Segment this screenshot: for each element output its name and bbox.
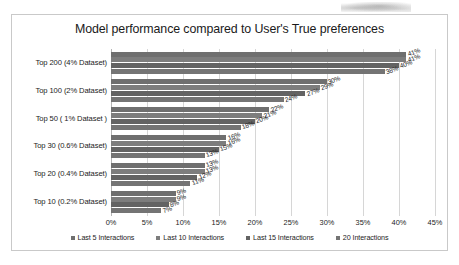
- bar[interactable]: [111, 69, 385, 74]
- bar[interactable]: [111, 202, 169, 207]
- bar-row: 21%: [111, 113, 435, 118]
- bar[interactable]: [111, 52, 406, 57]
- legend-swatch-icon: [156, 236, 160, 240]
- bar-row: 38%: [111, 69, 435, 74]
- bar-row: 15%: [111, 147, 435, 152]
- plot-area: 41%41%40%38%30%29%27%24%22%21%20%18%16%1…: [111, 49, 435, 216]
- bar-row: 13%: [111, 153, 435, 158]
- gridline: [435, 49, 436, 216]
- value-axis-tick: 5%: [142, 218, 153, 227]
- value-axis-tick: 30%: [320, 218, 335, 227]
- value-axis-tick: 10%: [176, 218, 191, 227]
- bar[interactable]: [111, 91, 305, 96]
- bar-row: 9%: [111, 197, 435, 202]
- bar-group: 16%16%15%13%: [111, 135, 435, 163]
- bar[interactable]: [111, 135, 226, 140]
- legend-label: 20 Interactions: [343, 233, 389, 242]
- category-axis-label: Top 100 (2% Dataset): [36, 86, 107, 95]
- category-axis-label: Top 20 (0.4% Dataset): [34, 169, 107, 178]
- legend-swatch-icon: [71, 236, 75, 240]
- legend-item[interactable]: Last 5 Interactions: [71, 233, 135, 242]
- legend-label: Last 5 Interactions: [78, 233, 135, 242]
- bar-row: 13%: [111, 163, 435, 168]
- bar-value-label: 7%: [162, 204, 173, 214]
- legend-label: Last 15 Interactions: [253, 233, 314, 242]
- legend-item[interactable]: Last 10 Interactions: [156, 233, 224, 242]
- bar-row: 30%: [111, 79, 435, 84]
- bar-row: 13%: [111, 169, 435, 174]
- bar-row: 29%: [111, 85, 435, 90]
- value-axis-tick: 45%: [428, 218, 443, 227]
- bar-row: 9%: [111, 191, 435, 196]
- category-axis: Top 200 (4% Dataset)Top 100 (2% Dataset)…: [16, 49, 109, 216]
- chart-legend: Last 5 InteractionsLast 10 InteractionsL…: [12, 233, 447, 242]
- value-axis-tick: 35%: [356, 218, 371, 227]
- category-axis-label: Top 200 (4% Dataset): [36, 58, 107, 67]
- value-axis: 0%5%10%15%20%25%30%35%40%45%: [111, 218, 435, 231]
- bar-groups: 41%41%40%38%30%29%27%24%22%21%20%18%16%1…: [111, 49, 435, 216]
- bar[interactable]: [111, 113, 262, 118]
- bar[interactable]: [111, 147, 219, 152]
- bar-group: 22%21%20%18%: [111, 107, 435, 135]
- legend-swatch-icon: [336, 236, 340, 240]
- category-axis-label: Top 50 ( 1% Dataset ): [36, 114, 107, 123]
- bar-row: 12%: [111, 175, 435, 180]
- bar[interactable]: [111, 153, 205, 158]
- bar-group: 41%41%40%38%: [111, 52, 435, 80]
- bar[interactable]: [111, 141, 226, 146]
- bar[interactable]: [111, 191, 176, 196]
- bar-row: 18%: [111, 125, 435, 130]
- bar[interactable]: [111, 125, 241, 130]
- bar[interactable]: [111, 197, 176, 202]
- scan-artifact: [341, 2, 411, 12]
- value-axis-tick: 40%: [392, 218, 407, 227]
- bar-group: 13%13%12%11%: [111, 163, 435, 191]
- legend-item[interactable]: Last 15 Interactions: [246, 233, 314, 242]
- legend-item[interactable]: 20 Interactions: [336, 233, 389, 242]
- value-axis-tick: 0%: [106, 218, 117, 227]
- bar-row: 11%: [111, 181, 435, 186]
- bar[interactable]: [111, 181, 190, 186]
- bar[interactable]: [111, 169, 205, 174]
- category-axis-label: Top 10 (0.2% Dataset): [34, 197, 107, 206]
- bar[interactable]: [111, 208, 161, 213]
- bar-row: 8%: [111, 202, 435, 207]
- legend-label: Last 10 Interactions: [163, 233, 224, 242]
- bar[interactable]: [111, 63, 399, 68]
- bar-row: 16%: [111, 141, 435, 146]
- value-axis-tick: 20%: [248, 218, 263, 227]
- bar-group: 9%9%8%7%: [111, 191, 435, 219]
- bar[interactable]: [111, 163, 205, 168]
- chart-title: Model performance compared to User's Tru…: [12, 22, 447, 36]
- bar-row: 41%: [111, 57, 435, 62]
- value-axis-tick: 15%: [212, 218, 227, 227]
- bar-value-label: 20%: [255, 114, 269, 125]
- bar[interactable]: [111, 97, 284, 102]
- bar[interactable]: [111, 107, 269, 112]
- bar-row: 24%: [111, 97, 435, 102]
- bar-row: 16%: [111, 135, 435, 140]
- bar[interactable]: [111, 57, 406, 62]
- bar[interactable]: [111, 85, 320, 90]
- chart-container: Model performance compared to User's Tru…: [11, 14, 448, 251]
- bar-row: 20%: [111, 119, 435, 124]
- bar[interactable]: [111, 175, 197, 180]
- bar-row: 41%: [111, 52, 435, 57]
- bar[interactable]: [111, 79, 327, 84]
- legend-swatch-icon: [246, 236, 250, 240]
- bar-row: 27%: [111, 91, 435, 96]
- bar-row: 7%: [111, 208, 435, 213]
- bar-group: 30%29%27%24%: [111, 79, 435, 107]
- bar[interactable]: [111, 119, 255, 124]
- category-axis-label: Top 30 (0.6% Dataset): [34, 141, 107, 150]
- value-axis-tick: 25%: [284, 218, 299, 227]
